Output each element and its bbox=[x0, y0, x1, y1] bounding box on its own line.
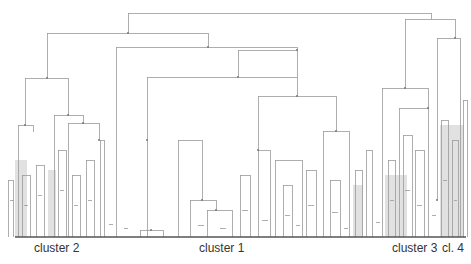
merge-node bbox=[257, 149, 259, 151]
merge-node bbox=[436, 199, 438, 201]
merge-node bbox=[215, 209, 217, 211]
merge-node bbox=[237, 76, 239, 78]
merge-node bbox=[296, 95, 298, 97]
merge-node bbox=[201, 199, 203, 201]
label-cluster-2: cluster 2 bbox=[34, 241, 79, 255]
merge-node bbox=[82, 122, 84, 124]
merge-node bbox=[454, 37, 456, 39]
merge-node bbox=[127, 32, 129, 34]
merge-node bbox=[404, 87, 406, 89]
label-cluster-1: cluster 1 bbox=[199, 241, 244, 255]
label-cluster-3: cluster 3 bbox=[392, 241, 437, 255]
shaded-leaf-regions bbox=[15, 125, 464, 237]
merge-node bbox=[296, 49, 298, 51]
merge-node bbox=[98, 139, 100, 141]
shaded-region bbox=[15, 160, 27, 237]
dendrogram-plot bbox=[0, 0, 471, 264]
merge-node bbox=[67, 114, 69, 116]
label-cluster-4: cl. 4 bbox=[442, 241, 464, 255]
merge-node bbox=[335, 130, 337, 132]
merge-node bbox=[46, 77, 48, 79]
merge-node bbox=[207, 46, 209, 48]
shaded-region bbox=[48, 170, 56, 237]
dendrogram-figure: cluster 2 cluster 1 cluster 3 cl. 4 bbox=[0, 0, 471, 264]
merge-node bbox=[24, 124, 26, 126]
merge-node bbox=[146, 139, 148, 141]
merge-node bbox=[150, 229, 152, 231]
merge-node bbox=[427, 107, 429, 109]
shaded-region bbox=[353, 185, 363, 237]
